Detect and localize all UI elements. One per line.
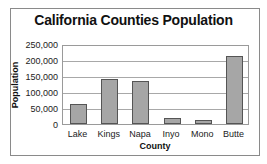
- bar-lake: [70, 104, 87, 124]
- x-axis-label: County: [140, 141, 171, 151]
- y-tick-label: 0: [53, 120, 58, 130]
- y-axis-label: Population: [10, 62, 20, 109]
- y-tick-label: 50,000: [30, 104, 58, 114]
- plot-area: [62, 45, 249, 125]
- x-tick-label: Mono: [191, 129, 214, 139]
- x-tick-label: Napa: [129, 129, 151, 139]
- gridline: [63, 61, 248, 62]
- y-tick-label: 250,000: [25, 40, 58, 50]
- x-tick-label: Kings: [97, 129, 120, 139]
- bar-mono: [195, 120, 212, 124]
- bar-napa: [132, 81, 149, 124]
- y-tick-label: 100,000: [25, 88, 58, 98]
- bar-kings: [101, 79, 118, 124]
- y-tick-label: 200,000: [25, 56, 58, 66]
- x-tick-label: Butte: [223, 129, 244, 139]
- gridline: [63, 109, 248, 110]
- chart-title: California Counties Population: [0, 12, 267, 28]
- bar-butte: [226, 56, 243, 124]
- x-tick-label: Inyo: [163, 129, 180, 139]
- gridline: [63, 77, 248, 78]
- gridline: [63, 93, 248, 94]
- bar-inyo: [164, 118, 181, 124]
- y-tick-label: 150,000: [25, 72, 58, 82]
- x-tick-label: Lake: [68, 129, 88, 139]
